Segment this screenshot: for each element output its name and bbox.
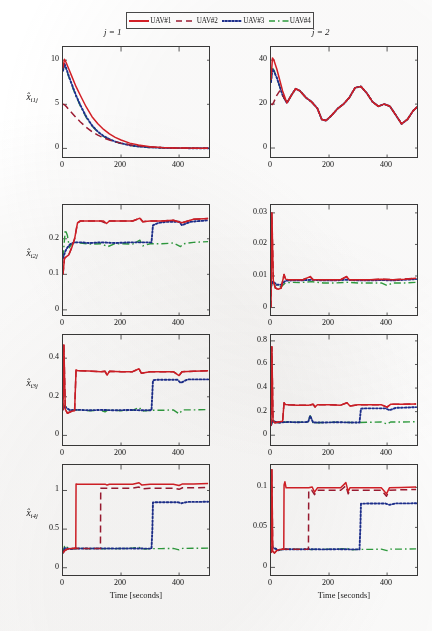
plot-panel-r4c1 [62,464,210,576]
ytick-label-r4c2-2: 0.1 [236,481,267,490]
ytick-label-r2c2-3: 0.03 [236,207,267,216]
xtick-label-r4c1-2: 400 [163,578,193,587]
plot-panel-r1c2 [270,46,418,158]
ytick-label-r1c2-0: 0 [236,142,267,151]
ytick-label-r2c1-2: 0.2 [28,233,59,242]
plot-panel-r4c2 [270,464,418,576]
xtick-label-r3c2-2: 400 [371,448,401,457]
xtick-label-r3c1-0: 0 [47,448,77,457]
xtick-label-r4c1-1: 200 [105,578,135,587]
ytick-label-r1c2-2: 40 [236,54,267,63]
xtick-label-r1c2-2: 400 [371,160,401,169]
legend-entry-uav1: UAV#1 [129,17,171,25]
xtick-label-r2c1-0: 0 [47,318,77,327]
ytick-label-r3c2-3: 0.6 [236,358,267,367]
ylabel-row4: x̂i4j [2,508,38,520]
xtick-label-r1c1-1: 200 [105,160,135,169]
legend-entry-uav4: UAV#4 [269,17,311,25]
ytick-label-r3c1-2: 0.4 [28,352,59,361]
xtick-label-r2c2-0: 0 [255,318,285,327]
ytick-label-r3c1-1: 0.2 [28,391,59,400]
ytick-label-r3c2-1: 0.2 [236,406,267,415]
ytick-label-r2c2-1: 0.01 [236,270,267,279]
ytick-label-r4c2-0: 0 [236,561,267,570]
ytick-label-r3c2-4: 0.8 [236,335,267,344]
uav-estimation-figure: UAV#1 UAV#2 UAV#3 UAV#4 j = 1 j = 2 x̂i1… [0,0,432,631]
ytick-label-r2c2-0: 0 [236,302,267,311]
xtick-label-r2c2-1: 200 [313,318,343,327]
column-title-j2: j = 2 [312,27,330,37]
xtick-label-r3c1-2: 400 [163,448,193,457]
legend: UAV#1 UAV#2 UAV#3 UAV#4 [126,12,314,29]
column-title-j1: j = 1 [104,27,122,37]
ytick-label-r4c2-1: 0.05 [236,521,267,530]
ytick-label-r1c2-1: 20 [236,98,267,107]
ytick-label-r2c1-1: 0.1 [28,268,59,277]
ytick-label-r2c1-0: 0 [28,304,59,313]
ytick-label-r1c1-1: 5 [28,98,59,107]
plot-panel-r3c2 [270,334,418,446]
legend-entry-uav3: UAV#3 [222,17,264,25]
legend-label-uav4: UAV#4 [290,17,311,25]
xtick-label-r4c2-1: 200 [313,578,343,587]
line-dotted-icon [222,17,242,25]
ytick-label-r4c1-2: 1 [28,484,59,493]
line-dashed-icon [176,17,196,25]
xtick-label-r3c1-1: 200 [105,448,135,457]
ytick-label-r3c1-0: 0 [28,429,59,438]
xtick-label-r2c1-1: 200 [105,318,135,327]
xtick-label-r4c2-0: 0 [255,578,285,587]
legend-label-uav2: UAV#2 [197,17,218,25]
ylabel-row3: x̂i3j [2,378,38,390]
xtick-label-r1c1-0: 0 [47,160,77,169]
legend-label-uav3: UAV#3 [243,17,264,25]
ytick-label-r1c1-2: 10 [28,54,59,63]
legend-entry-uav2: UAV#2 [176,17,218,25]
xtick-label-r4c2-2: 400 [371,578,401,587]
plot-panel-r2c1 [62,204,210,316]
xtick-label-r3c2-1: 200 [313,448,343,457]
xtick-label-r4c1-0: 0 [47,578,77,587]
ytick-label-r3c2-2: 0.4 [236,382,267,391]
xtick-label-r1c2-0: 0 [255,160,285,169]
plot-panel-r1c1 [62,46,210,158]
ytick-label-r2c2-2: 0.02 [236,238,267,247]
legend-label-uav1: UAV#1 [150,17,171,25]
ytick-label-r4c1-1: 0.5 [28,523,59,532]
ylabel-row2: x̂i2j [2,248,38,260]
xtick-label-r1c2-1: 200 [313,160,343,169]
ytick-label-r3c2-0: 0 [236,429,267,438]
line-solid-icon [129,17,149,25]
plot-panel-r3c1 [62,334,210,446]
xtick-label-r3c2-0: 0 [255,448,285,457]
ytick-label-r4c1-0: 0 [28,562,59,571]
line-dashdot-icon [269,17,289,25]
xaxis-title-r4c1: Time [seconds] [62,590,210,600]
plot-panel-r2c2 [270,204,418,316]
xtick-label-r2c1-2: 400 [163,318,193,327]
xtick-label-r2c2-2: 400 [371,318,401,327]
xtick-label-r1c1-2: 400 [163,160,193,169]
xaxis-title-r4c2: Time [seconds] [270,590,418,600]
ytick-label-r1c1-0: 0 [28,142,59,151]
